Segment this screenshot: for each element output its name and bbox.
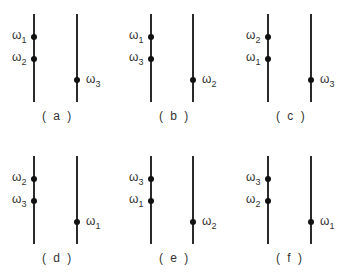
omega-subscript: 2 [211, 221, 216, 231]
label-left-bottom: ω1 [246, 51, 260, 68]
omega-symbol: ω [86, 72, 95, 86]
panel-caption: ( d ) [42, 251, 73, 265]
state-dot-right [74, 77, 80, 83]
right-level-line [310, 156, 312, 244]
state-dot-left-top [148, 34, 154, 40]
omega-symbol: ω [129, 50, 138, 64]
omega-symbol: ω [320, 214, 329, 228]
omega-symbol: ω [12, 192, 21, 206]
label-left-top: ω1 [129, 29, 143, 46]
state-dot-left-top [265, 34, 271, 40]
omega-subscript: 1 [21, 35, 26, 45]
label-left-bottom: ω1 [129, 193, 143, 210]
state-dot-right [190, 219, 196, 225]
label-left-top: ω3 [129, 171, 143, 188]
omega-subscript: 3 [255, 177, 260, 187]
omega-subscript: 1 [138, 35, 143, 45]
right-level-line [76, 156, 78, 244]
label-left-bottom: ω2 [12, 51, 26, 68]
label-right: ω1 [86, 215, 100, 232]
omega-symbol: ω [129, 28, 138, 42]
state-dot-left-bottom [265, 56, 271, 62]
label-left-bottom: ω3 [129, 51, 143, 68]
state-dot-left-bottom [265, 198, 271, 204]
label-left-top: ω2 [12, 171, 26, 188]
omega-subscript: 1 [329, 221, 334, 231]
omega-symbol: ω [246, 50, 255, 64]
omega-subscript: 3 [138, 57, 143, 67]
omega-subscript: 2 [255, 35, 260, 45]
right-level-line [192, 14, 194, 102]
label-right: ω2 [202, 215, 216, 232]
omega-subscript: 1 [95, 221, 100, 231]
omega-subscript: 2 [211, 79, 216, 89]
right-level-line [310, 14, 312, 102]
label-left-top: ω1 [12, 29, 26, 46]
label-left-top: ω3 [246, 171, 260, 188]
label-left-top: ω2 [246, 29, 260, 46]
state-dot-left-bottom [148, 56, 154, 62]
panel-caption: ( c ) [276, 109, 307, 123]
omega-symbol: ω [202, 72, 211, 86]
panel-caption: ( f ) [276, 251, 304, 265]
omega-symbol: ω [86, 214, 95, 228]
label-right: ω3 [320, 73, 334, 90]
omega-subscript: 1 [255, 57, 260, 67]
omega-subscript: 2 [21, 177, 26, 187]
omega-subscript: 3 [95, 79, 100, 89]
omega-symbol: ω [246, 192, 255, 206]
right-level-line [192, 156, 194, 244]
label-right: ω1 [320, 215, 334, 232]
omega-subscript: 3 [138, 177, 143, 187]
state-dot-left-top [265, 176, 271, 182]
state-dot-right [308, 219, 314, 225]
state-dot-right [190, 77, 196, 83]
omega-symbol: ω [12, 28, 21, 42]
state-dot-right [308, 77, 314, 83]
omega-symbol: ω [129, 170, 138, 184]
omega-subscript: 2 [255, 199, 260, 209]
omega-symbol: ω [246, 28, 255, 42]
state-dot-right [74, 219, 80, 225]
omega-subscript: 1 [138, 199, 143, 209]
state-dot-left-top [31, 176, 37, 182]
panel-caption: ( e ) [159, 251, 190, 265]
omega-symbol: ω [12, 170, 21, 184]
label-left-bottom: ω2 [246, 193, 260, 210]
label-right: ω3 [86, 73, 100, 90]
panel-caption: ( b ) [159, 109, 190, 123]
panel-caption: ( a ) [42, 109, 73, 123]
right-level-line [76, 14, 78, 102]
label-left-bottom: ω3 [12, 193, 26, 210]
state-dot-left-bottom [31, 198, 37, 204]
label-right: ω2 [202, 73, 216, 90]
state-dot-left-top [148, 176, 154, 182]
omega-symbol: ω [129, 192, 138, 206]
omega-subscript: 2 [21, 57, 26, 67]
state-dot-left-top [31, 34, 37, 40]
omega-symbol: ω [12, 50, 21, 64]
state-dot-left-bottom [31, 56, 37, 62]
omega-symbol: ω [202, 214, 211, 228]
omega-subscript: 3 [21, 199, 26, 209]
omega-symbol: ω [246, 170, 255, 184]
omega-symbol: ω [320, 72, 329, 86]
omega-subscript: 3 [329, 79, 334, 89]
state-dot-left-bottom [148, 198, 154, 204]
